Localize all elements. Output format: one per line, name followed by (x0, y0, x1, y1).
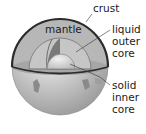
label-crust: crust (93, 2, 119, 14)
label-solid-inner-core: solid inner core (112, 79, 139, 115)
label-liquid-outer-core: liquid outer core (112, 23, 141, 59)
earth-layers-diagram: crust mantle liquid outer core solid inn… (0, 0, 146, 134)
label-mantle: mantle (45, 23, 82, 35)
